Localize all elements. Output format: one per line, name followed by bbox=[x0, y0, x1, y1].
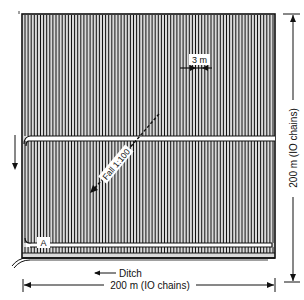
corner-label: A bbox=[40, 238, 46, 248]
furrow-lines bbox=[25, 15, 273, 253]
spacing-label: 3 m bbox=[192, 55, 207, 65]
height-label: 200 m (IO chains) bbox=[288, 108, 299, 187]
corner-label-a: A bbox=[37, 237, 50, 248]
ditch-label: Ditch bbox=[119, 268, 142, 279]
width-label: 200 m (IO chains) bbox=[110, 280, 189, 291]
field-drainage-diagram: A 3 m Fall 1:100 Ditch 200 m (IO ch bbox=[0, 0, 304, 300]
